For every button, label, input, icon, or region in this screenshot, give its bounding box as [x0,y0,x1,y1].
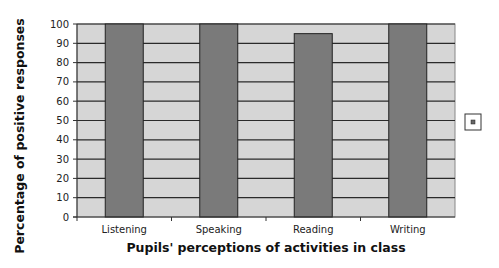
legend-marker [471,120,475,124]
bar-listening [105,24,143,217]
legend [465,114,481,130]
y-tick-label: 30 [56,154,69,165]
x-tick-label: Writing [390,224,426,235]
bar-speaking [200,24,238,217]
y-tick-label: 90 [56,38,69,49]
x-tick-labels: ListeningSpeakingReadingWriting [77,217,426,235]
bar-chart: 0102030405060708090100 ListeningSpeaking… [0,0,499,268]
y-tick-labels: 0102030405060708090100 [50,19,77,223]
y-tick-label: 20 [56,173,69,184]
y-tick-label: 50 [56,115,69,126]
y-tick-label: 40 [56,134,69,145]
x-tick-label: Listening [102,224,147,235]
bar-reading [294,34,332,217]
y-tick-label: 80 [56,57,69,68]
x-axis-title: Pupils' perceptions of activities in cla… [126,240,405,255]
x-tick-label: Reading [293,224,334,235]
bar-writing [389,24,427,217]
y-tick-label: 0 [63,212,69,223]
y-tick-label: 60 [56,96,69,107]
x-tick-label: Speaking [196,224,242,235]
y-tick-label: 100 [50,19,69,30]
y-axis-title: Percentage of positive responses [12,18,27,254]
y-tick-label: 70 [56,76,69,87]
y-tick-label: 10 [56,192,69,203]
